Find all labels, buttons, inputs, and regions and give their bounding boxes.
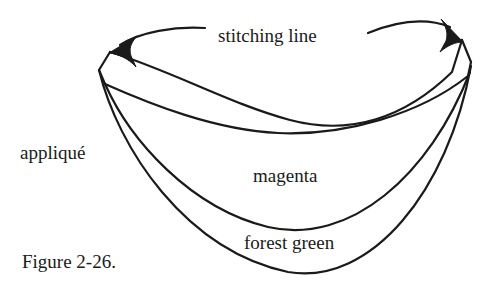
figure-2-26: stitching line appliqué magenta forest g…	[0, 0, 501, 300]
upper-band-top-edge	[110, 40, 462, 126]
leader-line-right	[368, 22, 450, 33]
label-applique: appliqué	[20, 143, 85, 162]
label-magenta: magenta	[253, 166, 317, 185]
figure-caption: Figure 2-26.	[22, 252, 116, 271]
curve-magenta-lower-edge	[105, 72, 470, 230]
label-forest-green: forest green	[244, 233, 334, 252]
curve-top-inner	[105, 76, 468, 133]
arrowhead-left-icon	[109, 36, 137, 67]
label-stitching-line: stitching line	[218, 26, 317, 45]
